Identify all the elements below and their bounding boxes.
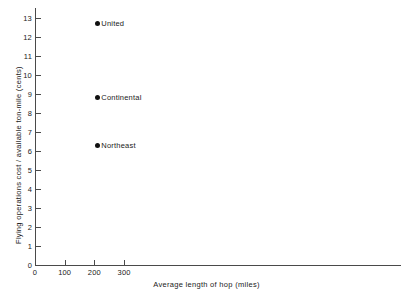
y-axis-tick [36, 18, 41, 19]
data-point-marker [95, 143, 100, 148]
y-axis-tick [36, 56, 41, 57]
data-point-marker [95, 21, 100, 26]
data-point-marker [95, 95, 100, 100]
data-point-label: Northeast [101, 141, 135, 150]
data-point-label: United [101, 19, 124, 28]
y-axis-tick [36, 132, 41, 133]
x-axis-tick-label: 0 [20, 268, 50, 277]
y-axis-tick [36, 75, 41, 76]
x-axis-tick [65, 260, 66, 265]
y-axis-tick-label: 12 [16, 33, 32, 42]
y-axis-tick [36, 227, 41, 228]
y-axis-tick [36, 246, 41, 247]
x-axis-title: Average length of hop (miles) [0, 280, 413, 289]
y-axis-tick [36, 189, 41, 190]
x-axis-line [35, 265, 401, 266]
y-axis-tick [36, 170, 41, 171]
y-axis-tick [36, 37, 41, 38]
x-axis-tick [94, 260, 95, 265]
y-axis-tick [36, 265, 41, 266]
scatter-chart: 012345678910111213 0100200300 UnitedCont… [0, 0, 413, 300]
y-axis-tick-label: 11 [16, 52, 32, 61]
x-axis-tick [124, 260, 125, 265]
x-axis-tick-label: 300 [109, 268, 139, 277]
data-point-label: Continental [101, 93, 141, 102]
x-axis-tick-label: 200 [79, 268, 109, 277]
y-axis-tick [36, 208, 41, 209]
y-axis-tick [36, 151, 41, 152]
y-axis-tick [36, 94, 41, 95]
y-axis-tick [36, 113, 41, 114]
y-axis-title: Flying operations cost / available ton-m… [14, 66, 23, 244]
y-axis-tick-label: 13 [16, 14, 32, 23]
x-axis-tick-label: 100 [50, 268, 80, 277]
